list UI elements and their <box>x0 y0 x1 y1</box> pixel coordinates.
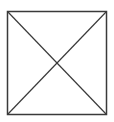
placeholder-cross-box-icon <box>0 0 114 122</box>
